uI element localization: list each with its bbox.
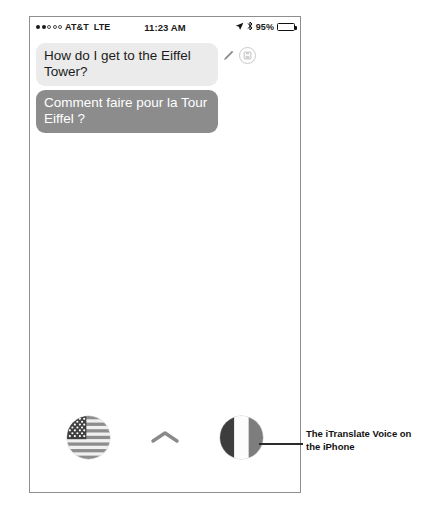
bluetooth-icon	[247, 21, 253, 33]
battery-icon	[277, 23, 295, 31]
annotation-leader-line	[259, 443, 303, 445]
swap-languages-chevron-up-icon[interactable]	[150, 429, 180, 445]
france-flag-icon	[220, 416, 263, 459]
message-actions	[223, 47, 256, 64]
iphone-device-frame: AT&T LTE 11:23 AM 95% How do I get to th…	[29, 16, 301, 493]
location-arrow-icon	[235, 22, 244, 33]
us-flag-icon	[67, 416, 110, 459]
status-bar: AT&T LTE 11:23 AM 95%	[30, 17, 300, 37]
battery-percent-label: 95%	[256, 22, 274, 32]
network-type-label: LTE	[94, 22, 111, 32]
status-bar-right: 95%	[235, 21, 295, 33]
message-bubble-source[interactable]: How do I get to the Eiffel Tower?	[36, 43, 218, 86]
signal-strength-icon	[36, 25, 62, 29]
conversation-list[interactable]: How do I get to the Eiffel Tower? Com	[30, 37, 300, 394]
message-row-source: How do I get to the Eiffel Tower?	[30, 43, 300, 86]
save-phrase-icon[interactable]	[239, 47, 256, 64]
target-language-flag-button[interactable]	[220, 416, 263, 459]
carrier-label: AT&T	[65, 22, 89, 32]
message-bubble-translated[interactable]: Comment faire pour la Tour Eiffel ?	[36, 90, 218, 133]
status-bar-left: AT&T LTE	[36, 22, 110, 32]
message-row-translated: Comment faire pour la Tour Eiffel ?	[30, 90, 300, 133]
edit-pencil-icon[interactable]	[223, 50, 234, 61]
annotation-caption: The iTranslate Voice on the iPhone	[306, 428, 424, 453]
source-language-flag-button[interactable]	[67, 416, 110, 459]
